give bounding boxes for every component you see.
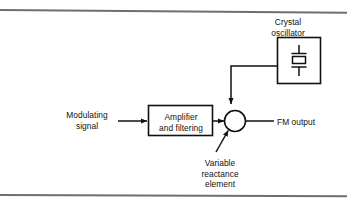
connector-variable-reactance-to-junction bbox=[216, 131, 228, 153]
crystal-oscillator-label: Crystal oscillator bbox=[258, 17, 318, 38]
connector-crystal-to-junction bbox=[231, 66, 277, 104]
fm-output-label: FM output bbox=[277, 117, 339, 128]
variable-reactance-element-label: Variable reactance element bbox=[192, 158, 248, 190]
figure-canvas: Crystal oscillator Modulating signal Amp… bbox=[0, 0, 347, 205]
crystal-oscillator-box bbox=[278, 38, 321, 84]
crystal-symbol bbox=[292, 45, 307, 76]
crystal-oscillator-block bbox=[278, 38, 321, 84]
modulating-signal-label: Modulating signal bbox=[56, 110, 118, 131]
amplifier-and-filtering-label: Amplifier and filtering bbox=[151, 112, 211, 133]
summing-junction-circle bbox=[225, 111, 246, 132]
